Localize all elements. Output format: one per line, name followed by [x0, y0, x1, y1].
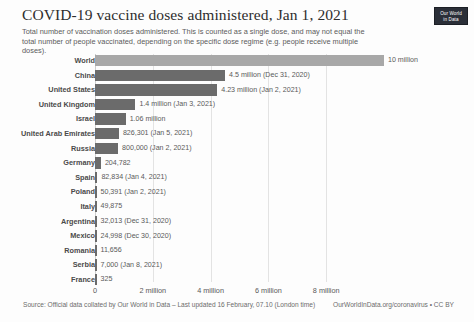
- bar-label-italy: Italy: [0, 202, 95, 211]
- bar-row[interactable]: Serbia7,000 (Jan 8, 2021): [0, 258, 474, 273]
- bar-poland[interactable]: [95, 186, 97, 197]
- bar-row[interactable]: Mexico24,998 (Dec 30, 2020): [0, 229, 474, 244]
- x-tick-3: 6 million: [255, 286, 282, 295]
- bar-label-romania: Romania: [0, 246, 95, 255]
- owid-logo[interactable]: Our World in Data: [434, 7, 468, 25]
- bar-row[interactable]: Italy49,875: [0, 200, 474, 215]
- bar-united-states[interactable]: [95, 84, 217, 95]
- bar-israel[interactable]: [95, 113, 126, 124]
- bar-china[interactable]: [95, 70, 225, 81]
- bar-value-poland: 50,391 (Jan 2, 2021): [101, 188, 166, 196]
- bar-label-russia: Russia: [0, 144, 95, 153]
- bar-row[interactable]: Germany204,782: [0, 156, 474, 171]
- bar-label-united-kingdom: United Kingdom: [0, 100, 95, 109]
- bar-label-serbia: Serbia: [0, 260, 95, 269]
- bar-value-germany: 204,782: [105, 159, 131, 167]
- owid-logo-line-2: in Data: [435, 17, 467, 23]
- bar-value-russia: 800,000 (Jan 2, 2021): [122, 144, 191, 152]
- bar-value-china: 4.5 million (Dec 31, 2020): [229, 71, 310, 79]
- bar-romania[interactable]: [95, 245, 97, 256]
- bar-united-kingdom[interactable]: [95, 99, 135, 110]
- bar-value-serbia: 7,000 (Jan 8, 2021): [101, 261, 163, 269]
- bar-label-poland: Poland: [0, 187, 95, 196]
- bar-label-world: World: [0, 56, 95, 65]
- bar-row[interactable]: United States4.23 million (Jan 2, 2021): [0, 83, 474, 98]
- bar-row[interactable]: United Kingdom1.4 million (Jan 3, 2021): [0, 98, 474, 113]
- bar-france[interactable]: [95, 274, 97, 285]
- bar-row[interactable]: Israel1.06 million: [0, 112, 474, 127]
- chart-header: COVID-19 vaccine doses administered, Jan…: [22, 6, 412, 56]
- bar-value-united-kingdom: 1.4 million (Jan 3, 2021): [139, 100, 215, 108]
- owid-bar-chart: COVID-19 vaccine doses administered, Jan…: [0, 0, 474, 322]
- bar-world[interactable]: [95, 55, 384, 66]
- bar-value-world: 10 million: [388, 56, 418, 64]
- bar-label-china: China: [0, 71, 95, 80]
- bar-label-united-arab-emirates: United Arab Emirates: [0, 129, 95, 138]
- bar-rows: World10 millionChina4.5 million (Dec 31,…: [0, 54, 474, 288]
- x-tick-0: 0: [93, 286, 97, 295]
- bar-label-france: France: [0, 275, 95, 284]
- bar-row[interactable]: Spain82,834 (Jan 4, 2021): [0, 171, 474, 186]
- bar-label-argentina: Argentina: [0, 217, 95, 226]
- chart-footer: Source: Official data collated by Our Wo…: [0, 301, 474, 311]
- bar-russia[interactable]: [95, 143, 118, 154]
- bar-label-mexico: Mexico: [0, 231, 95, 240]
- bar-spain[interactable]: [95, 172, 97, 183]
- bar-value-israel: 1.06 million: [130, 115, 166, 123]
- bar-row[interactable]: United Arab Emirates826,301 (Jan 5, 2021…: [0, 127, 474, 142]
- bar-row[interactable]: World10 million: [0, 54, 474, 69]
- bar-value-romania: 11,656: [101, 246, 122, 254]
- attribution-link[interactable]: OurWorldInData.org/coronavirus • CC BY: [333, 301, 454, 309]
- bar-germany[interactable]: [95, 157, 101, 168]
- bar-row[interactable]: Russia800,000 (Jan 2, 2021): [0, 142, 474, 157]
- bar-value-united-arab-emirates: 826,301 (Jan 5, 2021): [123, 129, 192, 137]
- bar-label-israel: Israel: [0, 114, 95, 123]
- chart-subtitle: Total number of vaccination doses admini…: [22, 27, 374, 56]
- bar-value-italy: 49,875: [101, 202, 123, 210]
- bar-row[interactable]: Poland50,391 (Jan 2, 2021): [0, 185, 474, 200]
- bar-row[interactable]: China4.5 million (Dec 31, 2020): [0, 69, 474, 84]
- x-axis: 02 million4 million6 million8 million: [0, 286, 474, 300]
- bar-label-spain: Spain: [0, 173, 95, 182]
- bar-argentina[interactable]: [95, 216, 97, 227]
- source-note: Source: Official data collated by Our Wo…: [23, 301, 315, 309]
- bar-value-mexico: 24,998 (Dec 30, 2020): [101, 232, 172, 240]
- plot-area: World10 millionChina4.5 million (Dec 31,…: [0, 54, 474, 282]
- bar-label-germany: Germany: [0, 158, 95, 167]
- bar-value-united-states: 4.23 million (Jan 2, 2021): [221, 86, 301, 94]
- bar-row[interactable]: Argentina32,013 (Dec 31, 2020): [0, 215, 474, 230]
- bar-value-argentina: 32,013 (Dec 31, 2020): [101, 217, 172, 225]
- bar-label-united-states: United States: [0, 85, 95, 94]
- bar-united-arab-emirates[interactable]: [95, 128, 119, 139]
- bar-italy[interactable]: [95, 201, 97, 212]
- x-tick-1: 2 million: [139, 286, 166, 295]
- bar-value-spain: 82,834 (Jan 4, 2021): [101, 173, 166, 181]
- x-tick-4: 8 million: [313, 286, 340, 295]
- bar-value-france: 325: [101, 275, 113, 283]
- bar-mexico[interactable]: [95, 230, 97, 241]
- bar-row[interactable]: Romania11,656: [0, 244, 474, 259]
- page-title: COVID-19 vaccine doses administered, Jan…: [22, 6, 412, 24]
- bar-serbia[interactable]: [95, 259, 97, 270]
- x-tick-2: 4 million: [197, 286, 224, 295]
